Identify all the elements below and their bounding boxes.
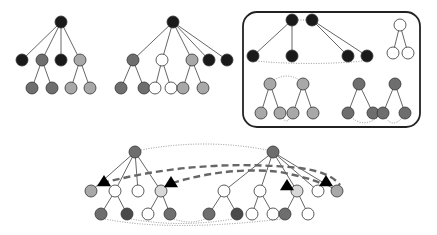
bottom-node: [231, 208, 243, 220]
panel-node: [389, 78, 401, 90]
tree2-node: [203, 54, 215, 66]
arrowhead-triangle-icon: [97, 175, 111, 186]
dotted-link: [105, 219, 282, 226]
bottom-edge: [115, 152, 135, 191]
panel-node: [306, 14, 318, 26]
panel-node: [361, 50, 373, 62]
tree2-edge: [173, 22, 227, 60]
tree2-node: [186, 54, 198, 66]
tree2-node: [221, 54, 233, 66]
tree1-node: [55, 16, 67, 28]
tree1-node: [26, 82, 38, 94]
panel-node: [353, 78, 365, 90]
panel-node: [394, 19, 406, 31]
tree2-edge: [133, 22, 173, 60]
dotted-link: [274, 76, 299, 80]
tree1-node: [36, 54, 48, 66]
tree2-node: [138, 82, 150, 94]
dashed-arrow: [172, 170, 320, 183]
tree2-node: [127, 54, 139, 66]
panel-node: [247, 50, 259, 62]
panel-node: [287, 107, 299, 119]
tree1-node: [16, 54, 28, 66]
tree1-node: [65, 82, 77, 94]
bottom-node: [291, 185, 303, 197]
bottom-node: [218, 185, 230, 197]
bottom-node: [142, 208, 154, 220]
panel-edge: [312, 20, 348, 56]
tree2-node: [177, 82, 189, 94]
bottom-node: [129, 146, 141, 158]
panel-node: [402, 47, 414, 59]
panel-edge: [253, 20, 292, 56]
bottom-node: [331, 185, 343, 197]
panel-node: [286, 14, 298, 26]
tree2-node: [115, 82, 127, 94]
tree1-node: [46, 82, 58, 94]
dotted-link: [174, 219, 205, 222]
panel-node: [342, 50, 354, 62]
bottom-node: [95, 208, 107, 220]
tree1-node: [55, 54, 67, 66]
bottom-node: [109, 185, 121, 197]
panel-node: [264, 78, 276, 90]
panel-node: [255, 107, 267, 119]
tree1-node: [74, 54, 86, 66]
bottom-node: [121, 208, 133, 220]
tree2-node: [165, 82, 177, 94]
dotted-link: [283, 118, 290, 121]
bottom-node: [302, 208, 314, 220]
panel-border: [243, 12, 420, 127]
panel-edge: [312, 20, 367, 56]
bottom-node: [267, 208, 279, 220]
merged-trees: [85, 144, 343, 226]
tree1-node: [84, 82, 96, 94]
bottom-node: [312, 185, 324, 197]
panel-node: [387, 47, 399, 59]
dotted-link: [141, 144, 267, 150]
bottom-node: [254, 185, 266, 197]
bottom-node: [279, 208, 291, 220]
panel-node: [274, 107, 286, 119]
panel-node: [286, 50, 298, 62]
bottom-node: [85, 185, 97, 197]
tree-1: [16, 16, 96, 94]
bottom-node: [164, 208, 176, 220]
grouped-subtrees-panel: [243, 12, 420, 127]
tree2-node: [167, 16, 179, 28]
bottom-node: [203, 208, 215, 220]
tree2-node: [149, 82, 161, 94]
tree2-node: [197, 82, 209, 94]
bottom-node: [246, 208, 258, 220]
dotted-link: [386, 118, 402, 123]
arrowhead-triangle-icon: [280, 179, 294, 190]
tree-2: [115, 16, 233, 94]
panel-node: [297, 78, 309, 90]
bottom-node: [267, 146, 279, 158]
panel-node: [399, 107, 411, 119]
panel-node: [342, 107, 354, 119]
bottom-node: [132, 185, 144, 197]
panel-node: [377, 107, 389, 119]
panel-node: [307, 107, 319, 119]
tree-diagram: [0, 0, 437, 235]
tree2-node: [156, 54, 168, 66]
